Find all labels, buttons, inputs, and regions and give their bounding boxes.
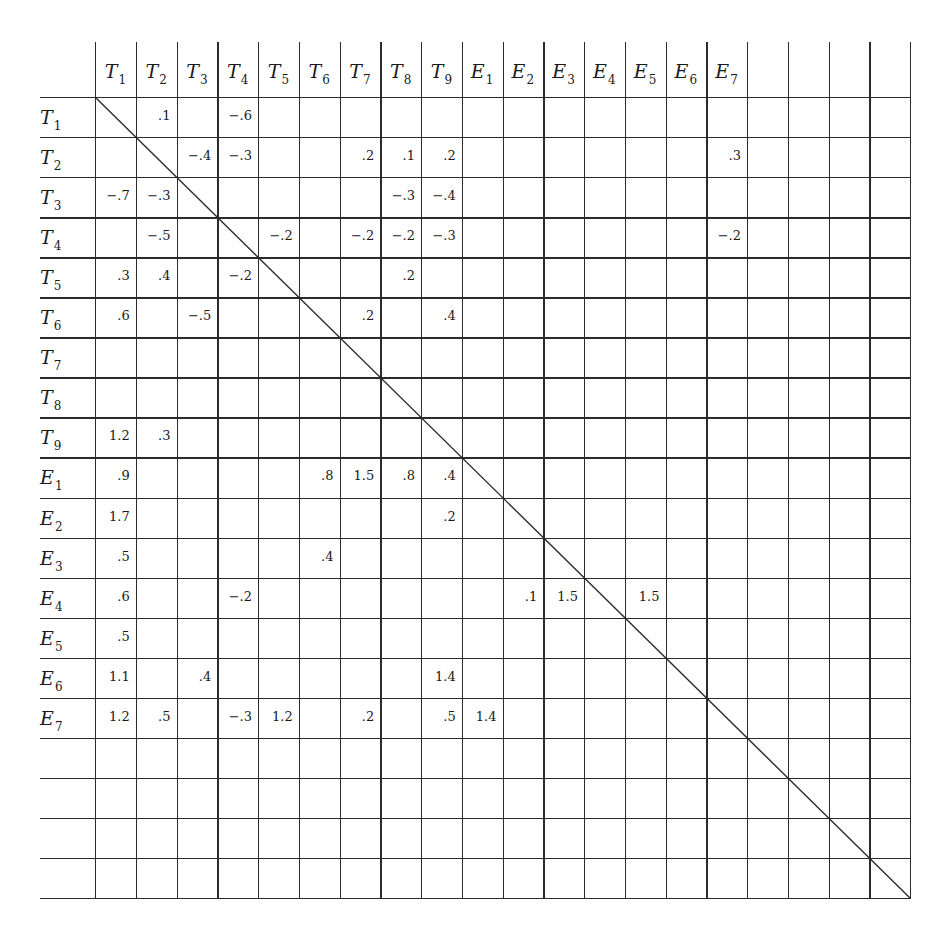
matrix-cell-value: .4 — [179, 669, 212, 685]
grid-vertical-line — [543, 42, 544, 898]
column-header-letter: T — [268, 60, 281, 82]
matrix-cell-value: .1 — [382, 148, 415, 164]
matrix-cell-value: −.5 — [179, 308, 212, 324]
row-header-subscript: 4 — [54, 239, 62, 253]
matrix-cell-value: .2 — [382, 268, 415, 284]
column-header-letter: T — [227, 60, 240, 82]
row-header-subscript: 1 — [55, 479, 63, 493]
row-header-letter: T — [40, 226, 53, 248]
column-header-subscript: 3 — [200, 73, 208, 87]
row-header-subscript: 3 — [55, 560, 63, 574]
row-header-letter: E — [40, 507, 54, 529]
row-header-subscript: 5 — [54, 279, 62, 293]
matrix-cell-value: .8 — [382, 468, 415, 484]
matrix-cell-value: 1.5 — [627, 589, 660, 605]
matrix-cell-value: −.4 — [179, 148, 212, 164]
column-header-subscript: 2 — [526, 73, 534, 87]
column-header-letter: E — [675, 60, 689, 82]
column-header-letter: T — [145, 60, 158, 82]
grid-horizontal-line — [40, 578, 911, 579]
column-header-subscript: 4 — [241, 73, 249, 87]
row-header — [40, 866, 92, 893]
grid-horizontal-line — [40, 618, 911, 619]
row-header: E7 — [40, 706, 92, 733]
grid-horizontal-line — [40, 818, 911, 819]
column-header: T1 — [95, 56, 136, 86]
row-header-letter: E — [40, 547, 54, 569]
matrix-cell-value: .5 — [138, 709, 171, 725]
matrix-cell-value: −.2 — [219, 589, 252, 605]
matrix-cell-value: −.2 — [708, 228, 741, 244]
column-header-subscript: 8 — [404, 73, 412, 87]
matrix-cell-value: −.2 — [342, 228, 375, 244]
matrix-cell-value: .6 — [97, 308, 130, 324]
grid-horizontal-line — [40, 137, 911, 138]
matrix-cell-value: −.5 — [138, 228, 171, 244]
column-header-letter: E — [715, 60, 729, 82]
row-header: T8 — [40, 385, 92, 412]
row-header-subscript: 6 — [54, 319, 62, 333]
row-header: E4 — [40, 586, 92, 613]
column-header: T8 — [380, 56, 421, 86]
row-header-subscript: 5 — [55, 640, 63, 654]
row-header: T6 — [40, 305, 92, 332]
matrix-cell-value: .3 — [97, 268, 130, 284]
column-header-subscript: 6 — [322, 73, 330, 87]
row-header-letter: T — [40, 386, 53, 408]
column-header-subscript: 5 — [281, 73, 289, 87]
grid-horizontal-line — [40, 417, 911, 418]
row-header: T9 — [40, 425, 92, 452]
grid-horizontal-line — [40, 337, 911, 338]
column-header-letter: T — [390, 60, 403, 82]
matrix-cell-value: 1.1 — [97, 669, 130, 685]
column-header — [788, 56, 829, 86]
matrix-cell-value: .4 — [301, 549, 334, 565]
column-header-letter: E — [552, 60, 566, 82]
row-header: T1 — [40, 105, 92, 132]
column-header — [747, 56, 788, 86]
column-header: T5 — [258, 56, 299, 86]
row-header-subscript: 7 — [54, 359, 62, 373]
column-header — [829, 56, 870, 86]
row-header-subscript: 2 — [54, 159, 62, 173]
matrix-cell-value: 1.5 — [342, 468, 375, 484]
column-header-subscript: 9 — [444, 73, 452, 87]
matrix-cell-value: −.2 — [219, 268, 252, 284]
matrix-cell-value: .8 — [301, 468, 334, 484]
grid-vertical-line — [584, 42, 585, 898]
grid-horizontal-line — [40, 457, 911, 458]
grid-horizontal-line — [40, 658, 911, 659]
column-header: T9 — [421, 56, 462, 86]
column-header: T6 — [299, 56, 340, 86]
row-header-letter: T — [40, 306, 53, 328]
grid-vertical-line — [869, 42, 870, 898]
row-header: E1 — [40, 465, 92, 492]
grid-horizontal-line — [40, 257, 911, 258]
grid-horizontal-line — [40, 297, 911, 298]
grid-horizontal-line — [40, 97, 911, 98]
matrix-cell-value: −.4 — [423, 188, 456, 204]
grid-horizontal-line — [40, 538, 911, 539]
row-header: E5 — [40, 626, 92, 653]
matrix-cell-value: −.3 — [423, 228, 456, 244]
matrix-cell-value: .1 — [138, 108, 171, 124]
row-header: E3 — [40, 546, 92, 573]
column-header-letter: E — [512, 60, 526, 82]
column-header: T2 — [136, 56, 177, 86]
matrix-cell-value: .4 — [423, 308, 456, 324]
matrix-figure: T1T2T3T4T5T6T7T8T9E1E2E3E4E5E6E7 T1T2T3T… — [0, 0, 942, 936]
matrix-cell-value: −.7 — [97, 188, 130, 204]
column-header-letter: T — [186, 60, 199, 82]
matrix-cell-value: .4 — [423, 468, 456, 484]
matrix-cell-value: 1.4 — [423, 669, 456, 685]
column-header-subscript: 5 — [649, 73, 657, 87]
matrix-cell-value: −.3 — [138, 188, 171, 204]
matrix-cell-value: .5 — [423, 709, 456, 725]
row-header: T4 — [40, 225, 92, 252]
matrix-cell-value: −.3 — [382, 188, 415, 204]
row-header-letter: E — [40, 466, 54, 488]
matrix-cell-value: 1.2 — [260, 709, 293, 725]
grid-horizontal-line — [40, 217, 911, 218]
column-header-letter: T — [105, 60, 118, 82]
column-header: E3 — [543, 56, 584, 86]
